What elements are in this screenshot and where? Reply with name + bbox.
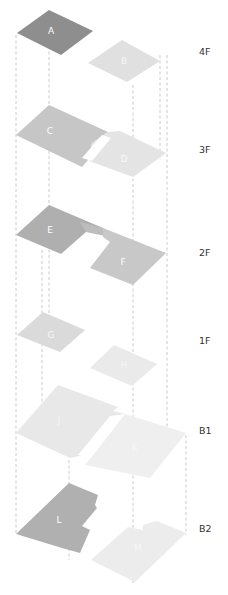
zone-label-b: B: [121, 56, 127, 66]
zone-label-e: E: [47, 225, 53, 235]
floor-label-b2: B2: [199, 523, 212, 534]
floor-label-b1: B1: [199, 425, 212, 436]
zone-label-l: L: [56, 515, 61, 525]
floor-stack-diagram: ABCDEFGHJKLM: [0, 0, 228, 595]
zone-label-a: A: [48, 26, 55, 36]
floor-b2: LM: [16, 483, 186, 582]
zone-label-f: F: [120, 257, 125, 267]
floor-3f: CD: [16, 105, 166, 177]
zone-label-d: D: [121, 154, 128, 164]
floor-label-1f: 1F: [199, 335, 211, 346]
zone-label-h: H: [121, 360, 128, 370]
floor-2f: EF: [16, 205, 166, 285]
floor-label-4f: 4F: [199, 46, 211, 57]
zone-label-j: J: [57, 415, 61, 425]
zone-label-g: G: [48, 330, 55, 340]
zone-label-c: C: [47, 126, 53, 136]
floor-1f: GH: [17, 312, 157, 386]
zone-f[interactable]: [90, 228, 166, 285]
floor-b1: JK: [16, 385, 186, 478]
floor-label-3f: 3F: [199, 144, 211, 155]
zone-label-m: M: [134, 543, 142, 553]
zone-a[interactable]: [17, 10, 93, 55]
floor-4f: AB: [17, 10, 160, 82]
floor-label-2f: 2F: [199, 247, 211, 258]
